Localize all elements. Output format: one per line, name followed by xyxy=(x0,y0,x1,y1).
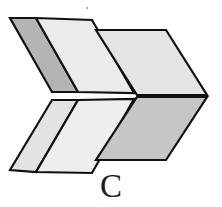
figure-canvas: C xyxy=(0,0,222,207)
stray-speck-artifact xyxy=(86,7,88,9)
figure-caption-letter: C xyxy=(0,168,222,204)
